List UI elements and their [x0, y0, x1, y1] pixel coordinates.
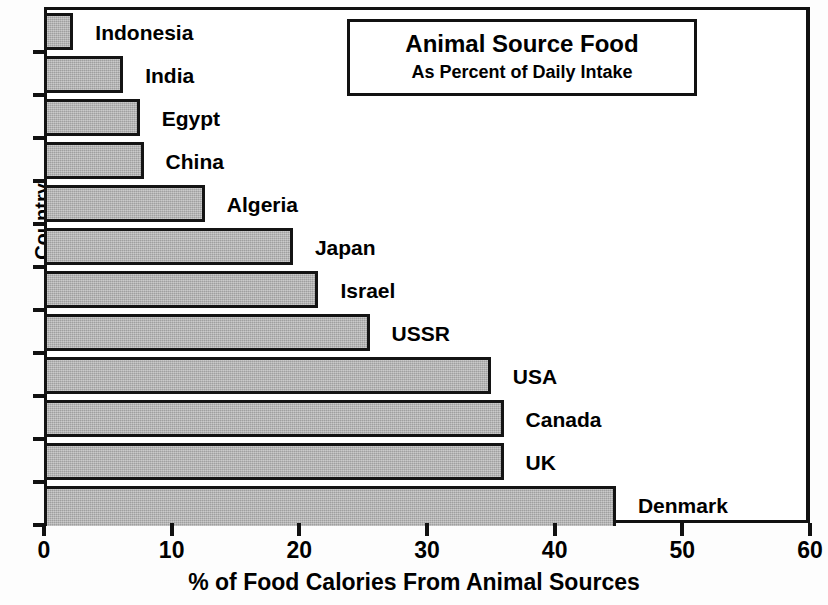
x-axis-tick — [297, 523, 301, 536]
x-axis-title: % of Food Calories From Animal Sources — [0, 570, 828, 595]
x-axis-tick-label: 50 — [652, 539, 712, 562]
chart-subtitle: As Percent of Daily Intake — [360, 62, 684, 84]
y-axis-tick — [33, 265, 45, 269]
x-axis-tick — [170, 523, 174, 536]
x-axis-tick — [42, 523, 46, 536]
chart-title-box: Animal Source Food As Percent of Daily I… — [347, 19, 697, 96]
bar-label-usa: USA — [513, 365, 557, 386]
bar-uk — [44, 443, 504, 480]
bar-label-egypt: Egypt — [162, 107, 220, 128]
bar-algeria — [44, 185, 205, 222]
bar-japan — [44, 228, 293, 265]
bar-row: China — [44, 139, 810, 182]
bar-row: UK — [44, 440, 810, 483]
x-axis-tick-label: 30 — [397, 539, 457, 562]
y-axis-tick — [33, 394, 45, 398]
x-axis-tick-label: 10 — [142, 539, 202, 562]
bar-label-ussr: USSR — [392, 322, 450, 343]
y-axis-tick — [33, 50, 45, 54]
bar-denmark — [44, 486, 616, 526]
x-axis-tick — [680, 523, 684, 536]
bar-chart: Country IndonesiaIndiaEgyptChinaAlgeriaJ… — [0, 0, 828, 605]
bar-ussr — [44, 314, 370, 351]
x-axis-tick-label: 60 — [780, 539, 828, 562]
bar-india — [44, 56, 123, 93]
bar-row: Egypt — [44, 96, 810, 139]
y-axis-tick — [33, 308, 45, 312]
bar-label-china: China — [166, 150, 224, 171]
y-axis-tick — [33, 179, 45, 183]
bar-egypt — [44, 99, 140, 136]
bar-row: USA — [44, 354, 810, 397]
y-axis-tick — [33, 93, 45, 97]
y-axis-tick — [33, 222, 45, 226]
y-axis-tick — [33, 136, 45, 140]
x-axis-tick-label: 20 — [269, 539, 329, 562]
bar-label-india: India — [145, 64, 194, 85]
bar-canada — [44, 400, 504, 437]
bar-row: Denmark — [44, 483, 810, 526]
bar-china — [44, 142, 144, 179]
bar-row: Algeria — [44, 182, 810, 225]
y-axis-tick — [33, 480, 45, 484]
bar-israel — [44, 271, 318, 308]
bar-label-canada: Canada — [526, 408, 602, 429]
bar-row: Japan — [44, 225, 810, 268]
bar-usa — [44, 357, 491, 394]
x-axis-tick-label: 0 — [14, 539, 74, 562]
x-axis-tick — [425, 523, 429, 536]
bar-label-algeria: Algeria — [227, 193, 298, 214]
x-axis-tick — [808, 523, 812, 536]
bar-row: Canada — [44, 397, 810, 440]
bar-row: USSR — [44, 311, 810, 354]
bar-label-denmark: Denmark — [638, 494, 728, 515]
bar-label-japan: Japan — [315, 236, 376, 257]
bar-label-israel: Israel — [340, 279, 395, 300]
bar-label-uk: UK — [526, 451, 556, 472]
chart-title: Animal Source Food — [360, 30, 684, 58]
bar-indonesia — [44, 13, 73, 50]
y-axis-tick — [33, 437, 45, 441]
x-axis-tick — [553, 523, 557, 536]
x-axis-tick-label: 40 — [525, 539, 585, 562]
y-axis-tick — [33, 351, 45, 355]
bar-row: Israel — [44, 268, 810, 311]
bar-label-indonesia: Indonesia — [95, 21, 193, 42]
